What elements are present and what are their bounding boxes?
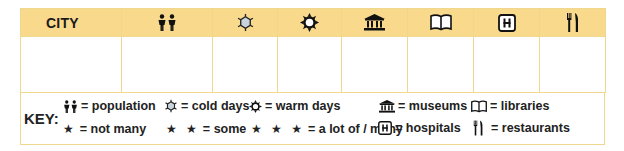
star-icon: ★ ★ — [166, 122, 200, 136]
museum-icon — [364, 14, 385, 31]
fork-knife-icon — [473, 120, 484, 136]
key-item-some: ★ ★ = some — [166, 122, 246, 136]
people-icon — [157, 14, 177, 31]
key-label: KEY: — [24, 110, 59, 127]
header-museums — [342, 9, 408, 37]
cell-population[interactable] — [122, 37, 213, 93]
key-legend: KEY: = population = cold days — [20, 93, 605, 145]
hospital-icon — [498, 14, 516, 32]
key-item-libraries: = libraries — [471, 99, 549, 113]
cell-cold-days[interactable] — [213, 37, 278, 93]
cell-libraries[interactable] — [408, 37, 474, 93]
cell-museums[interactable] — [342, 37, 408, 93]
city-comparison-table: CITY — [20, 8, 606, 93]
sun-icon — [300, 13, 319, 32]
key-text-some: = some — [203, 122, 246, 136]
sun-icon — [249, 100, 262, 113]
key-text-not-many: = not many — [80, 122, 146, 136]
key-item-cold-days: = cold days — [164, 99, 249, 113]
fork-knife-icon — [566, 13, 580, 32]
header-warm-days — [278, 9, 342, 37]
cell-warm-days[interactable] — [278, 37, 342, 93]
snowflake-icon — [236, 13, 255, 32]
hospital-icon — [378, 121, 392, 135]
key-item-hospitals: = hospitals — [378, 121, 461, 135]
cell-restaurants[interactable] — [540, 37, 606, 93]
key-item-museums: = museums — [379, 99, 467, 113]
key-text-hospitals: = hospitals — [395, 121, 461, 135]
key-item-warm-days: = warm days — [249, 99, 340, 113]
key-text-population: = population — [81, 99, 156, 113]
book-icon — [471, 100, 487, 113]
key-item-population: = population — [63, 99, 156, 113]
header-libraries — [408, 9, 474, 37]
key-item-not-many: ★ = not many — [63, 122, 146, 136]
museum-icon — [379, 100, 395, 113]
header-hospitals — [474, 9, 540, 37]
cell-hospitals[interactable] — [474, 37, 540, 93]
header-cold-days — [213, 9, 278, 37]
key-text-cold-days: = cold days — [181, 99, 249, 113]
book-icon — [430, 14, 452, 31]
snowflake-icon — [164, 99, 178, 113]
key-item-restaurants: = restaurants — [473, 120, 570, 136]
key-text-museums: = museums — [398, 99, 467, 113]
star-icon: ★ ★ ★ — [251, 122, 305, 136]
header-city: CITY — [21, 9, 122, 37]
key-text-restaurants: = restaurants — [491, 121, 570, 135]
table-row — [21, 37, 606, 93]
key-text-warm-days: = warm days — [265, 99, 340, 113]
cell-city[interactable] — [21, 37, 122, 93]
star-icon: ★ — [63, 122, 77, 136]
people-icon — [63, 100, 78, 113]
key-text-libraries: = libraries — [490, 99, 549, 113]
header-population — [122, 9, 213, 37]
header-restaurants — [540, 9, 606, 37]
city-comparison-table-container: CITY — [20, 8, 605, 145]
header-row: CITY — [21, 9, 606, 37]
